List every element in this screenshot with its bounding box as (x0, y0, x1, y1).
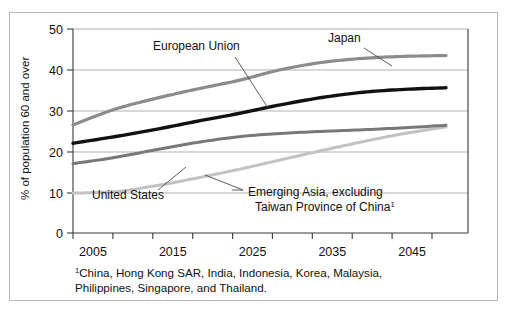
y-axis-tick-labels: 50 40 30 20 10 0 (49, 23, 63, 241)
annotation-leaders (158, 48, 392, 190)
series-line-united-states (73, 125, 446, 163)
ytick-label-50: 50 (49, 23, 63, 37)
x-axis-ticks (73, 233, 432, 239)
annotation-emerging-asia-line2: Taiwan Province of China1 (255, 200, 395, 214)
leader-european-union (235, 57, 268, 108)
xtick-label-2045: 2045 (398, 245, 426, 259)
footnote-line-1: 1China, Hong Kong SAR, India, Indonesia,… (75, 266, 382, 279)
series-lines (73, 56, 446, 194)
series-line-emerging-asia (73, 127, 446, 193)
ytick-label-20: 20 (49, 146, 63, 160)
ytick-label-10: 10 (49, 187, 63, 201)
annotation-emerging-asia-line1: Emerging Asia, excluding (248, 185, 383, 199)
gridlines (73, 29, 468, 193)
chart-svg: % of population 60 and over 50 40 30 20 … (0, 0, 519, 316)
xtick-label-2005: 2005 (79, 245, 107, 259)
annotation-emerging-asia-line2-text: Taiwan Province of China (255, 200, 391, 214)
annotation-united-states: United States (92, 188, 164, 202)
ytick-label-40: 40 (49, 64, 63, 78)
footnote-ref-marker: 1 (390, 200, 394, 209)
footnote: 1China, Hong Kong SAR, India, Indonesia,… (75, 266, 382, 294)
ytick-label-0: 0 (56, 227, 63, 241)
y-axis-ticks (67, 29, 73, 233)
ytick-label-30: 30 (49, 105, 63, 119)
xtick-label-2015: 2015 (159, 245, 187, 259)
footnote-line-1-text: China, Hong Kong SAR, India, Indonesia, … (79, 266, 382, 279)
y-axis-title: % of population 60 and over (19, 57, 31, 200)
footnote-line-2: Philippines, Singapore, and Thailand. (75, 281, 267, 294)
x-axis-tick-labels: 2005 2015 2025 2035 2045 (79, 245, 426, 259)
annotation-european-union: European Union (153, 39, 240, 53)
leader-united-states (158, 167, 186, 190)
annotation-japan: Japan (328, 31, 361, 45)
leader-emerging-asia (205, 175, 243, 190)
xtick-label-2025: 2025 (239, 245, 267, 259)
chart-figure: % of population 60 and over 50 40 30 20 … (0, 0, 519, 316)
xtick-label-2035: 2035 (318, 245, 346, 259)
